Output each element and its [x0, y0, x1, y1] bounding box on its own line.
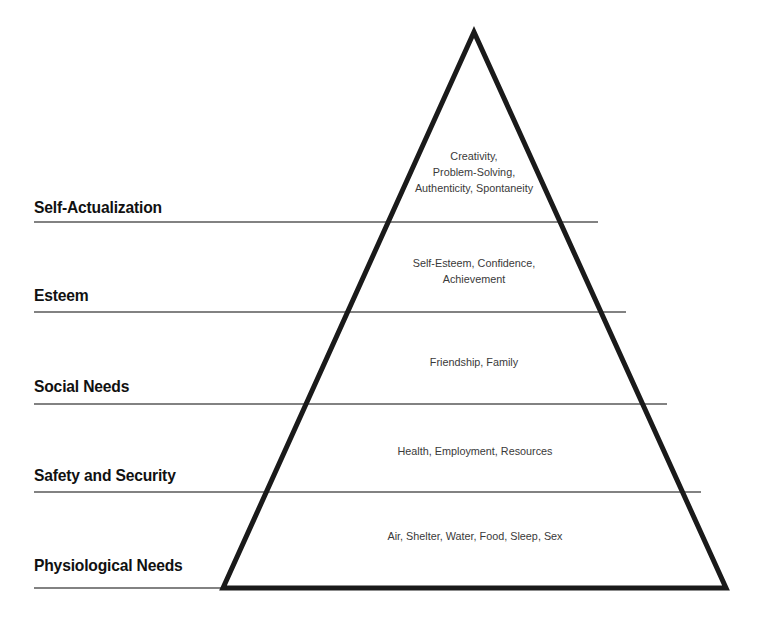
tier-content-esteem: Self-Esteem, Confidence, Achievement — [376, 255, 572, 287]
tier-label-esteem: Esteem — [34, 286, 89, 306]
tier-content-safety-and-security: Health, Employment, Resources — [367, 443, 583, 459]
tier-content-self-actualization: Creativity, Problem-Solving, Authenticit… — [380, 148, 568, 196]
tier-label-social-needs: Social Needs — [34, 377, 129, 397]
maslow-pyramid-diagram: Self-Actualization Esteem Social Needs S… — [0, 0, 765, 625]
tier-content-physiological-needs: Air, Shelter, Water, Food, Sleep, Sex — [358, 528, 593, 544]
pyramid-outline-triangle — [223, 32, 726, 588]
tier-label-physiological-needs: Physiological Needs — [34, 556, 183, 576]
tier-content-social-needs: Friendship, Family — [376, 354, 572, 370]
tier-label-safety-and-security: Safety and Security — [34, 466, 176, 486]
tier-label-self-actualization: Self-Actualization — [34, 198, 162, 218]
